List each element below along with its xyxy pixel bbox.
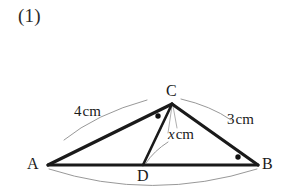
length-label-ac: 4cm	[74, 103, 101, 120]
vertex-label-c: C	[166, 82, 177, 100]
length-label-cd: xcm	[168, 126, 194, 143]
angle-mark-abc	[235, 154, 240, 159]
fan-ray-right	[173, 106, 177, 128]
triangle-diagram	[0, 0, 286, 186]
length-value-cb: 3	[227, 111, 235, 127]
length-label-cb: 3cm	[227, 111, 254, 128]
length-value-ac: 4	[74, 103, 82, 119]
angle-mark-acd	[155, 113, 160, 118]
vertex-label-d: D	[137, 167, 149, 185]
leader-curve-ab	[49, 169, 257, 186]
length-value-cd: x	[168, 126, 175, 142]
length-unit-ac: cm	[83, 103, 101, 119]
vertex-label-a: A	[27, 155, 39, 173]
geometry-problem-figure: (1) A B C D 4cm	[0, 0, 286, 186]
vertex-label-b: B	[262, 155, 273, 173]
length-unit-cd: cm	[176, 126, 194, 142]
length-unit-cb: cm	[236, 111, 254, 127]
